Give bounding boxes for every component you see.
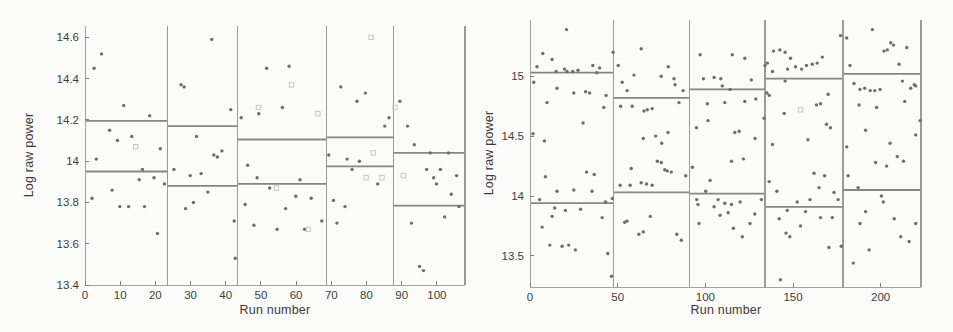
- svg-text:15: 15: [511, 70, 524, 82]
- left-scatter-plot: 010203040506070809010013.413.613.81414.2…: [57, 26, 465, 301]
- svg-text:14.2: 14.2: [57, 114, 79, 126]
- axes: [85, 26, 465, 285]
- svg-text:70: 70: [325, 289, 338, 301]
- outlier-squares: [134, 35, 406, 231]
- svg-text:50: 50: [255, 289, 268, 301]
- svg-text:10: 10: [114, 289, 127, 301]
- svg-text:13.5: 13.5: [502, 250, 524, 262]
- svg-text:90: 90: [395, 289, 408, 301]
- data-points: [90, 38, 460, 273]
- svg-text:14.6: 14.6: [57, 31, 79, 43]
- svg-text:50: 50: [611, 291, 624, 303]
- left-y-axis-label: Log raw power: [22, 75, 38, 235]
- svg-text:13.4: 13.4: [57, 279, 80, 291]
- svg-text:40: 40: [219, 289, 232, 301]
- outlier-squares: [798, 108, 802, 112]
- right-x-axis-label: Run number: [531, 303, 921, 317]
- svg-text:0: 0: [82, 289, 88, 301]
- svg-text:14: 14: [511, 190, 524, 202]
- svg-text:0: 0: [527, 291, 533, 303]
- svg-text:13.6: 13.6: [57, 238, 79, 250]
- svg-text:14.4: 14.4: [57, 73, 80, 85]
- svg-text:60: 60: [290, 289, 303, 301]
- right-y-axis-label: Log raw power: [482, 73, 498, 233]
- tick-marks-and-labels: 05010015020013.51414.515: [502, 70, 891, 303]
- data-points: [531, 28, 922, 282]
- svg-text:200: 200: [871, 291, 890, 303]
- svg-text:20: 20: [149, 289, 162, 301]
- svg-text:100: 100: [696, 291, 715, 303]
- svg-text:150: 150: [783, 291, 802, 303]
- axes: [530, 20, 921, 287]
- left-x-axis-label: Run number: [85, 303, 465, 317]
- svg-text:14.5: 14.5: [502, 130, 524, 142]
- right-scatter-plot: 05010015020013.51414.515: [502, 20, 922, 303]
- svg-text:80: 80: [360, 289, 373, 301]
- qa-power-figure: 010203040506070809010013.413.613.81414.2…: [0, 0, 953, 332]
- svg-text:13.8: 13.8: [57, 196, 79, 208]
- segment-dividers: [167, 26, 465, 285]
- segment-dividers: [613, 20, 921, 287]
- segment-mean-lines: [85, 121, 465, 206]
- svg-text:14: 14: [66, 155, 79, 167]
- svg-text:30: 30: [184, 289, 197, 301]
- figure-svg: 010203040506070809010013.413.613.81414.2…: [0, 0, 953, 332]
- svg-text:100: 100: [427, 289, 446, 301]
